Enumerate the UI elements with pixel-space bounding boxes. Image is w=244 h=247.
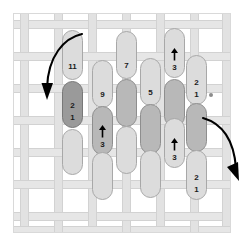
pill-label: 7 <box>124 60 128 71</box>
figure-canvas: 11219375332121 <box>0 0 244 247</box>
pill-label: 5 <box>148 87 152 98</box>
pill-c1-r2[interactable]: 21 <box>62 81 83 128</box>
pill-c6-r3[interactable]: 21 <box>186 150 207 200</box>
arrow-up-icon <box>98 125 107 138</box>
pill-label: 2 <box>70 100 74 111</box>
pill-c4-r3[interactable] <box>140 150 161 198</box>
pill-label: 2 <box>194 172 198 183</box>
pill-label: 1 <box>194 184 198 195</box>
pills-layer: 11219375332121 <box>0 0 244 247</box>
pill-label: 3 <box>172 152 176 163</box>
pill-label: 11 <box>68 61 76 72</box>
pill-c4-r1[interactable]: 5 <box>140 58 161 106</box>
pill-c6-r1[interactable]: 21 <box>186 55 207 105</box>
pill-c3-r1[interactable]: 7 <box>116 31 137 79</box>
pill-c5-r1[interactable]: 3 <box>164 28 185 78</box>
pill-c3-r3[interactable] <box>116 126 137 174</box>
pill-c2-r3[interactable] <box>92 152 113 200</box>
pill-c4-r2[interactable] <box>140 104 161 154</box>
pill-c6-r2[interactable] <box>186 103 207 152</box>
pill-label: 3 <box>100 139 104 150</box>
pill-label: 2 <box>194 77 198 88</box>
pill-label: 3 <box>172 62 176 73</box>
pill-c1-r3[interactable] <box>62 129 83 175</box>
pill-label: 1 <box>70 112 74 123</box>
pill-c3-r2[interactable] <box>116 79 137 127</box>
reference-dot <box>209 93 213 97</box>
arrow-up-icon <box>170 48 179 61</box>
pill-c2-r2[interactable]: 3 <box>92 106 113 155</box>
pill-c5-r3[interactable]: 3 <box>164 118 185 168</box>
pill-c1-r1[interactable]: 11 <box>62 30 83 80</box>
pill-c2-r1[interactable]: 9 <box>92 60 113 108</box>
pill-label: 9 <box>100 89 104 100</box>
pill-label: 1 <box>194 89 198 100</box>
arrow-up-icon <box>170 138 179 151</box>
